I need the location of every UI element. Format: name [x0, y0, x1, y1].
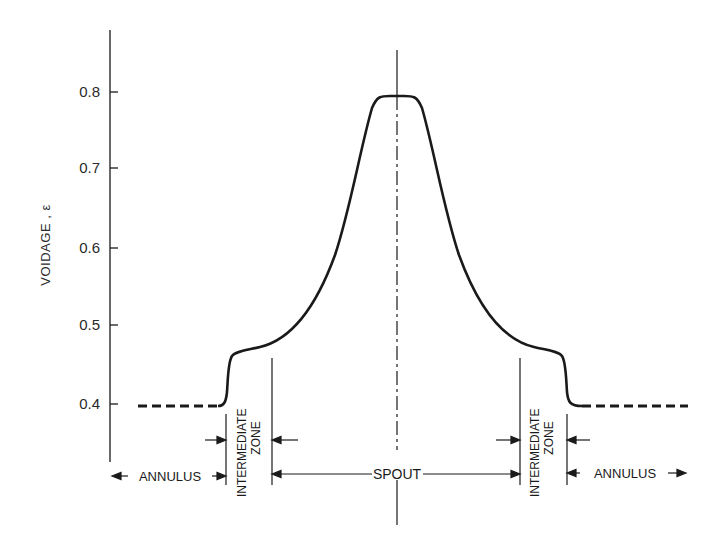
spout-label: SPOUT	[373, 466, 422, 482]
voidage-profile-diagram: 0.4 0.5 0.6 0.7 0.8 VOIDAGE , ε ANNULUS	[0, 0, 720, 540]
intermediate-left-label-line1: INTERMEDIATE	[235, 409, 249, 497]
y-tick-0.4: 0.4	[79, 395, 100, 412]
intermediate-left-label-line2: ZONE	[249, 421, 263, 454]
y-tick-0.5: 0.5	[79, 316, 100, 333]
annulus-left-label: ANNULUS	[139, 469, 201, 484]
y-tick-0.7: 0.7	[79, 159, 100, 176]
y-axis-ticks	[110, 92, 118, 404]
intermediate-right-label-line2: ZONE	[542, 421, 556, 454]
y-tick-0.6: 0.6	[79, 239, 100, 256]
y-axis-title: VOIDAGE , ε	[38, 204, 53, 285]
y-tick-0.8: 0.8	[79, 83, 100, 100]
annulus-right-label: ANNULUS	[594, 466, 656, 481]
intermediate-right-label-line1: INTERMEDIATE	[528, 409, 542, 497]
